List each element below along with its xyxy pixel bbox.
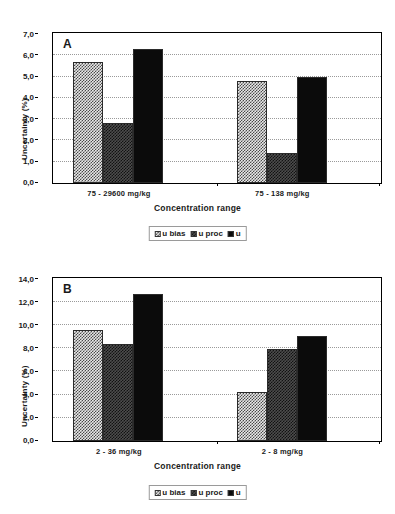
solid-black-swatch: [228, 490, 234, 496]
legend-label: u bias: [162, 488, 185, 497]
light-checker-swatch: [154, 490, 160, 496]
bar-u-bias-group-2: [237, 81, 267, 183]
plot-frame-a: [52, 32, 382, 184]
x-category-label: 2 - 36 mg/kg: [96, 447, 142, 456]
y-tick-label: 2,0: [0, 135, 34, 144]
gridline: [53, 324, 381, 325]
legend-label: u: [236, 488, 241, 497]
solid-black-swatch: [228, 231, 234, 237]
y-tick-label: 1,0: [0, 157, 34, 166]
y-tick-mark: [35, 139, 38, 140]
y-tick-label: 4,0: [0, 390, 34, 399]
x-category-label: 75 - 29600 mg/kg: [87, 189, 150, 198]
legend-label: u proc: [198, 229, 222, 238]
y-axis-title-a: Uncertainty (%): [20, 98, 29, 160]
y-tick-mark: [35, 324, 38, 325]
y-tick-mark: [35, 161, 38, 162]
y-tick-mark: [35, 118, 38, 119]
y-tick-label: 5,0: [0, 72, 34, 81]
y-tick-mark: [35, 97, 38, 98]
y-tick-label: 0,0: [0, 436, 34, 445]
bar-u-group-2: [297, 77, 327, 183]
x-axis-title-b: Concentration range: [0, 461, 395, 471]
y-tick-label: 12,0: [0, 297, 34, 306]
bar-u-proc-group-2: [267, 153, 297, 183]
y-tick-mark: [35, 76, 38, 77]
y-tick-mark: [35, 394, 38, 395]
y-tick-label: 4,0: [0, 93, 34, 102]
y-tick-label: 6,0: [0, 50, 34, 59]
gridline: [53, 54, 381, 55]
y-tick-label: 3,0: [0, 114, 34, 123]
legend-label: u proc: [198, 488, 222, 497]
y-tick-mark: [35, 371, 38, 372]
x-category-label: 75 - 138 mg/kg: [255, 189, 310, 198]
dark-checker-swatch: [190, 231, 196, 237]
chart-panel-a: Uncertainty (%) 0,01,02,03,04,05,06,07,0…: [0, 0, 395, 257]
bar-u-proc-group-1: [103, 123, 133, 183]
bar-u-proc-group-2: [267, 349, 297, 441]
x-category-label: 2 - 8 mg/kg: [262, 447, 303, 456]
legend-item-u: u: [228, 488, 241, 497]
chart-panel-b: Uncertainty (%) 0,02,04,06,08,010,012,01…: [0, 257, 395, 514]
light-checker-swatch: [154, 231, 160, 237]
legend-item-u_bias: u bias: [154, 488, 185, 497]
legend-item-u_bias: u bias: [154, 229, 185, 238]
y-tick-mark: [35, 33, 38, 34]
y-tick-mark: [35, 278, 38, 279]
panel-label-a: A: [63, 37, 72, 51]
bar-u-group-1: [133, 294, 163, 441]
panel-label-b: B: [63, 282, 72, 296]
y-tick-mark: [35, 417, 38, 418]
bar-u-group-2: [297, 336, 327, 441]
legend-item-u: u: [228, 229, 241, 238]
y-tick-label: 10,0: [0, 320, 34, 329]
y-tick-mark: [35, 347, 38, 348]
legend-label: u bias: [162, 229, 185, 238]
x-axis-title-a: Concentration range: [0, 203, 395, 213]
bar-u-proc-group-1: [103, 344, 133, 441]
y-tick-label: 2,0: [0, 413, 34, 422]
y-tick-mark: [35, 182, 38, 183]
legend-b: u biasu procu: [148, 485, 246, 500]
y-tick-mark: [35, 440, 38, 441]
dark-checker-swatch: [190, 490, 196, 496]
y-tick-label: 8,0: [0, 343, 34, 352]
y-tick-label: 6,0: [0, 367, 34, 376]
gridline: [53, 301, 381, 302]
y-tick-label: 0,0: [0, 178, 34, 187]
legend-a: u biasu procu: [148, 226, 246, 241]
y-tick-mark: [35, 301, 38, 302]
y-tick-mark: [35, 54, 38, 55]
plot-frame-b: [52, 277, 382, 442]
x-tick-mark: [379, 441, 380, 444]
x-tick-mark: [379, 183, 380, 186]
x-tick-mark: [217, 441, 218, 444]
bar-u-bias-group-1: [73, 330, 103, 441]
bar-u-bias-group-2: [237, 392, 267, 441]
bar-u-group-1: [133, 49, 163, 183]
bar-u-bias-group-1: [73, 62, 103, 183]
y-tick-label: 7,0: [0, 29, 34, 38]
legend-label: u: [236, 229, 241, 238]
x-tick-mark: [217, 183, 218, 186]
legend-item-u_proc: u proc: [190, 488, 222, 497]
legend-item-u_proc: u proc: [190, 229, 222, 238]
y-tick-label: 14,0: [0, 274, 34, 283]
